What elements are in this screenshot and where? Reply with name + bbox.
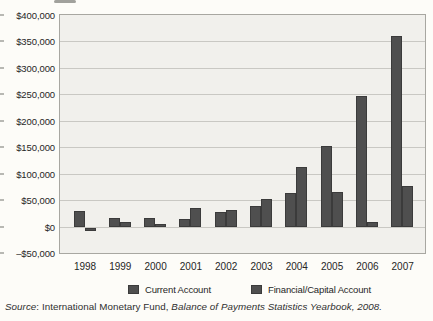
bar-financial-capital-account-1999 (120, 222, 131, 226)
source-middle: : International Monetary Fund, (36, 301, 171, 312)
bar-financial-capital-account-2004 (296, 167, 307, 226)
bar-current-account-2002 (215, 212, 226, 227)
bar-financial-capital-account-2007 (402, 186, 413, 226)
bar-current-account-2003 (250, 206, 261, 226)
gridline (60, 68, 425, 69)
balance-of-payments-bar-chart: $400,000$350,000$300,000$250,000$200,000… (0, 0, 433, 321)
legend-label-current-account: Current Account (145, 284, 211, 295)
x-axis-year-label: 2003 (244, 261, 280, 272)
y-axis-tick-label: $100,000 (0, 169, 55, 180)
bar-current-account-2007 (391, 36, 402, 226)
bar-financial-capital-account-1998 (85, 228, 96, 231)
x-axis-year-label: 2000 (138, 261, 174, 272)
y-axis-tick-label: $300,000 (0, 63, 55, 74)
bar-current-account-2001 (179, 219, 190, 226)
gridline (60, 200, 425, 201)
gridline (60, 121, 425, 122)
left-edge-tick (0, 14, 4, 16)
legend-item-current-account: Current Account (128, 283, 211, 295)
gridline (60, 41, 425, 42)
left-edge-tick (0, 40, 4, 42)
bar-current-account-1999 (109, 218, 120, 226)
y-axis-tick-label: $200,000 (0, 116, 55, 127)
bar-current-account-1998 (74, 211, 85, 227)
left-edge-tick (0, 120, 4, 122)
y-axis-tick-label: –$50,000 (0, 248, 55, 259)
x-axis: 1998199920002001200220032004200520062007 (60, 261, 425, 274)
gridline (60, 174, 425, 175)
bar-current-account-2004 (285, 193, 296, 226)
bar-current-account-2005 (321, 146, 332, 226)
bar-financial-capital-account-2006 (367, 222, 378, 226)
x-axis-year-label: 2001 (173, 261, 209, 272)
x-axis-year-label: 2004 (279, 261, 315, 272)
x-axis-year-label: 1999 (102, 261, 138, 272)
zero-gridline (60, 227, 425, 228)
scan-artifact-mark (54, 0, 76, 3)
x-axis-year-label: 2002 (208, 261, 244, 272)
x-axis-year-label: 2006 (349, 261, 385, 272)
y-axis-tick-label: $50,000 (0, 195, 55, 206)
y-axis-tick-label: $350,000 (0, 36, 55, 47)
bar-financial-capital-account-2003 (261, 199, 272, 227)
bar-current-account-2000 (144, 218, 155, 227)
left-edge-tick (0, 199, 4, 201)
source-prefix: Source (5, 301, 36, 312)
left-edge-tick (0, 252, 4, 254)
left-edge-tick (0, 67, 4, 69)
x-axis-year-label: 2007 (385, 261, 421, 272)
bar-financial-capital-account-2000 (155, 224, 166, 226)
source-title: Balance of Payments Statistics Yearbook,… (171, 301, 382, 312)
bar-current-account-2006 (356, 96, 367, 227)
bar-financial-capital-account-2005 (332, 192, 343, 226)
left-edge-tick (0, 226, 4, 228)
legend-swatch-financial-capital-account-icon (251, 285, 262, 294)
x-axis-year-label: 1998 (67, 261, 103, 272)
legend-item-financial-capital-account: Financial/Capital Account (251, 283, 371, 295)
left-edge-tick (0, 146, 4, 148)
gridline (60, 94, 425, 95)
source-note: Source: International Monetary Fund, Bal… (5, 301, 382, 312)
left-edge-tick (0, 93, 4, 95)
y-axis-tick-label: $250,000 (0, 89, 55, 100)
left-edge-tick (0, 173, 4, 175)
y-axis-tick-label: $150,000 (0, 142, 55, 153)
bar-financial-capital-account-2001 (190, 208, 201, 227)
y-axis-tick-label: $0 (0, 222, 55, 233)
plot-area (59, 14, 426, 254)
bar-financial-capital-account-2002 (226, 210, 237, 227)
y-axis-tick-label: $400,000 (0, 10, 55, 21)
legend-swatch-current-account-icon (128, 285, 139, 294)
gridline (60, 147, 425, 148)
x-axis-year-label: 2005 (314, 261, 350, 272)
legend-label-financial-capital-account: Financial/Capital Account (268, 284, 371, 295)
y-axis: $400,000$350,000$300,000$250,000$200,000… (0, 15, 55, 253)
